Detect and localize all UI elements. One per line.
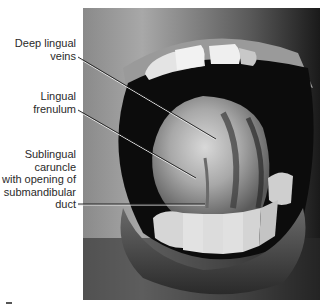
label-line: Deep lingual bbox=[15, 37, 76, 50]
label-line: frenulum bbox=[33, 103, 76, 116]
label-line: veins bbox=[15, 50, 76, 63]
label-line: duct bbox=[2, 198, 76, 211]
label-line: Lingual bbox=[33, 90, 76, 103]
label-lingual-frenulum: Lingual frenulum bbox=[33, 90, 76, 115]
label-line: with opening of bbox=[2, 173, 76, 186]
leader-sublingual-caruncle bbox=[78, 204, 205, 205]
label-sublingual-caruncle: Sublingual caruncle with opening of subm… bbox=[2, 148, 76, 211]
leader-deep-lingual-veins bbox=[78, 57, 216, 140]
leader-lingual-frenulum bbox=[78, 110, 196, 179]
label-line: submandibular bbox=[2, 186, 76, 199]
label-line: Sublingual bbox=[2, 148, 76, 161]
label-line: caruncle bbox=[2, 161, 76, 174]
label-deep-lingual-veins: Deep lingual veins bbox=[15, 37, 76, 62]
panel-letter-fragment bbox=[6, 302, 12, 304]
